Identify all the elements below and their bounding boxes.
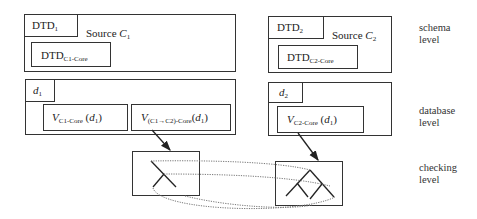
- database-level-label: databaselevel: [419, 105, 455, 129]
- mapping-dotted-curves: [151, 161, 335, 209]
- connectors-layer: [0, 0, 477, 219]
- schema-level-label: schemalevel: [419, 22, 451, 46]
- arrow-view-to-left-tree: [152, 130, 170, 150]
- checking-level-label: checkinglevel: [419, 162, 457, 186]
- right-tree-icon: [286, 170, 334, 199]
- arrow-view-to-right-tree: [298, 133, 318, 160]
